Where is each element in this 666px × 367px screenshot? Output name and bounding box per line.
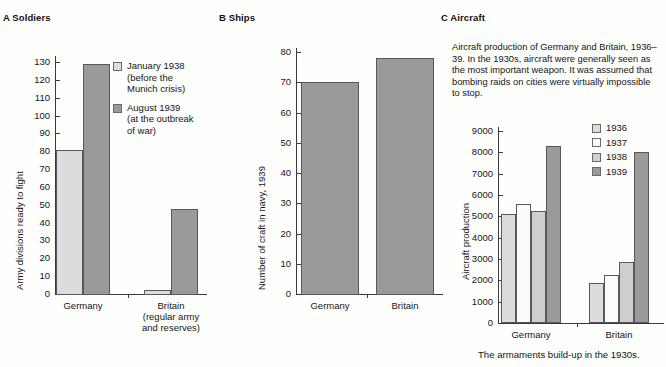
chart-c-y-tick-label: 8000 (467, 147, 493, 156)
chart-a-y-tick-label: 10 (24, 271, 50, 280)
chart-c-y-tick-label: 3000 (467, 254, 493, 263)
chart-c-y-tick-label: 5000 (467, 211, 493, 220)
chart-c-y-tick-label: 9000 (467, 126, 493, 135)
chart-a-y-tick-label: 110 (24, 93, 50, 102)
chart-c-y-tick-mark (499, 195, 503, 196)
chart-a-group-separator (128, 294, 129, 298)
chart-a-y-tick-mark (56, 133, 60, 134)
legend-label-jan1938-line1: January 1938 (127, 60, 185, 71)
legend-label-jan1938-line2: (before the (127, 72, 173, 83)
legend-label-aug1939: August 1939 (at the outbreak of war) (127, 102, 194, 137)
chart-c-bar-germany-1939 (546, 146, 561, 323)
chart-c-y-axis (498, 127, 499, 324)
chart-c-y-tick-label: 0 (467, 318, 493, 327)
chart-a-y-tick-mark (56, 98, 60, 99)
chart-c-legend: 1936 1937 1938 1939 (592, 123, 627, 181)
chart-b-y-axis-title: Number of craft in navy, 1939 (256, 166, 267, 290)
chart-a-y-tick-mark (56, 62, 60, 63)
chart-a-category-britain-line3: and reserves) (142, 322, 200, 333)
legend-label-1938: 1938 (606, 152, 627, 162)
chart-a-y-tick-label: 90 (24, 128, 50, 137)
chart-b-y-tick-label: 60 (271, 108, 291, 117)
chart-a-y-tick-label: 40 (24, 218, 50, 227)
chart-c-group-separator (577, 323, 578, 327)
chart-b-ships: Number of craft in navy, 1939 8070605040… (215, 0, 440, 367)
chart-a-legend: January 1938 (before the Munich crisis) … (113, 60, 218, 143)
chart-a-category-britain: Britain (regular army and reserves) (126, 300, 216, 333)
chart-a-y-tick-label: 20 (24, 253, 50, 262)
chart-a-soldiers: Army divisions ready to fight 1301201101… (0, 0, 215, 367)
legend-swatch-aug1939-icon (113, 104, 122, 113)
chart-a-y-tick-label: 0 (24, 289, 50, 298)
chart-c-y-tick-mark (499, 131, 503, 132)
legend-label-jan1938-line3: Munich crisis) (127, 83, 185, 94)
chart-c-bar-germany-1937 (516, 204, 531, 323)
chart-b-group-separator (367, 294, 368, 298)
legend-label-aug1939-line2: (at the outbreak (127, 113, 194, 124)
chart-b-y-tick-mark (297, 52, 301, 53)
chart-c-category-germany: Germany (491, 329, 571, 340)
chart-a-y-tick-label: 100 (24, 111, 50, 120)
legend-swatch-1938-icon (592, 153, 601, 162)
chart-c-y-tick-mark (499, 323, 503, 324)
legend-label-aug1939-line1: August 1939 (127, 102, 180, 113)
chart-c-description: Aircraft production of Germany and Brita… (452, 42, 660, 100)
chart-a-bar-britain-jan1938 (144, 290, 171, 295)
chart-a-y-tick-mark (56, 116, 60, 117)
chart-c-y-tick-label: 7000 (467, 169, 493, 178)
chart-c-y-tick-label: 6000 (467, 190, 493, 199)
chart-c-bar-britain-1937 (604, 275, 619, 323)
chart-b-y-tick-label: 10 (271, 259, 291, 268)
chart-a-y-tick-label: 30 (24, 235, 50, 244)
legend-label-1936: 1936 (606, 123, 627, 133)
chart-b-y-tick-label: 40 (271, 168, 291, 177)
chart-a-y-tick-label: 120 (24, 75, 50, 84)
chart-b-y-tick-label: 20 (271, 229, 291, 238)
chart-b-y-axis (296, 48, 297, 295)
chart-a-y-tick-label: 60 (24, 182, 50, 191)
chart-a-bar-germany-aug1939 (83, 64, 110, 295)
chart-b-y-tick-label: 70 (271, 77, 291, 86)
legend-swatch-jan1938-icon (113, 62, 122, 71)
legend-item-1939: 1939 (592, 167, 627, 177)
figure-page: 45 A Soldiers B Ships C Aircraft Army di… (0, 0, 666, 367)
chart-c-y-tick-label: 1000 (467, 297, 493, 306)
chart-c-category-britain: Britain (579, 329, 659, 340)
legend-swatch-1936-icon (592, 124, 601, 133)
legend-label-aug1939-line3: of war) (127, 125, 156, 136)
chart-a-y-tick-mark (56, 80, 60, 81)
chart-b-bar-germany (301, 82, 359, 295)
legend-label-1939: 1939 (606, 167, 627, 177)
chart-b-y-tick-label: 80 (271, 47, 291, 56)
figure-caption: The armaments build-up in the 1930s. (478, 349, 640, 360)
legend-swatch-1937-icon (592, 138, 601, 147)
chart-c-x-axis (498, 323, 664, 324)
chart-c-bar-germany-1938 (531, 211, 546, 323)
legend-item-1937: 1937 (592, 138, 627, 148)
chart-b-bar-britain (376, 58, 434, 295)
chart-c-y-tick-mark (499, 174, 503, 175)
chart-a-bar-britain-aug1939 (171, 209, 198, 295)
chart-b-y-tick-label: 50 (271, 138, 291, 147)
chart-b-y-tick-label: 30 (271, 198, 291, 207)
legend-label-1937: 1937 (606, 138, 627, 148)
chart-c-aircraft: Aircraft production of Germany and Brita… (440, 0, 666, 367)
legend-swatch-1939-icon (592, 167, 601, 176)
chart-c-bar-britain-1939 (634, 152, 649, 323)
chart-a-category-germany: Germany (38, 300, 128, 311)
chart-c-y-tick-label: 4000 (467, 233, 493, 242)
chart-b-y-tick-label: 0 (271, 289, 291, 298)
chart-c-y-tick-mark (499, 152, 503, 153)
legend-item-jan1938: January 1938 (before the Munich crisis) (113, 60, 218, 95)
chart-c-bar-britain-1936 (589, 283, 604, 323)
chart-b-category-britain: Britain (365, 300, 445, 311)
chart-c-bar-britain-1938 (619, 262, 634, 323)
chart-a-y-tick-label: 80 (24, 146, 50, 155)
chart-a-y-tick-label: 50 (24, 200, 50, 209)
legend-item-1938: 1938 (592, 152, 627, 162)
legend-item-1936: 1936 (592, 123, 627, 133)
chart-a-category-britain-line1: Britain (158, 300, 185, 311)
chart-c-y-tick-label: 2000 (467, 275, 493, 284)
chart-b-category-germany: Germany (290, 300, 370, 311)
chart-a-bar-germany-jan1938 (56, 150, 83, 295)
